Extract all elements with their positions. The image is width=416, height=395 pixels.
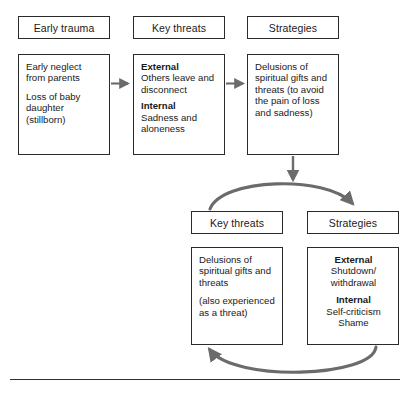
- early-trauma-line-1: Early neglect from parents: [26, 61, 103, 84]
- header-strategies-bottom: Strategies: [307, 211, 399, 234]
- header-strategies-bottom-label: Strategies: [329, 217, 377, 229]
- strategies-bottom-external-label: External: [315, 254, 392, 265]
- header-early-trauma-label: Early trauma: [34, 22, 95, 34]
- strategies-bottom-internal-label: Internal: [315, 294, 392, 305]
- key-threats-top-external: External Others leave and disconnect: [141, 61, 218, 95]
- key-threats-top-external-text: Others leave and disconnect: [141, 72, 214, 94]
- header-key-threats-top: Key threats: [133, 16, 225, 39]
- arrow-cycle-top-arc: [210, 184, 352, 209]
- formulation-diagram: Early trauma Early neglect from parents …: [0, 0, 416, 395]
- strategies-top-line-1: Delusions of spiritual gifts and threats…: [255, 61, 332, 118]
- key-threats-bottom-line-1: Delusions of spiritual gifts and threats: [199, 254, 276, 288]
- header-early-trauma: Early trauma: [18, 16, 110, 39]
- strategies-bottom-external-text: Shutdown/ withdrawal: [331, 265, 376, 287]
- header-key-threats-top-label: Key threats: [152, 22, 206, 34]
- box-strategies-top-content: Delusions of spiritual gifts and threats…: [247, 54, 339, 155]
- box-early-trauma-content: Early neglect from parents Loss of baby …: [18, 54, 110, 155]
- key-threats-bottom-line-2: (also experienced as a threat): [199, 295, 276, 318]
- strategies-bottom-internal-text: Self-criticism Shame: [326, 306, 380, 328]
- header-key-threats-bottom: Key threats: [191, 211, 283, 234]
- header-strategies-top-label: Strategies: [269, 22, 317, 34]
- key-threats-top-external-label: External: [141, 61, 218, 72]
- box-strategies-bottom-content: External Shutdown/ withdrawal Internal S…: [307, 247, 399, 345]
- early-trauma-line-2: Loss of baby daughter (stillborn): [26, 91, 103, 125]
- key-threats-top-internal: Internal Sadness and aloneness: [141, 100, 218, 134]
- header-strategies-top: Strategies: [247, 16, 339, 39]
- bottom-divider-rule: [10, 379, 400, 380]
- header-key-threats-bottom-label: Key threats: [210, 217, 264, 229]
- strategies-bottom-external: External Shutdown/ withdrawal: [315, 254, 392, 288]
- arrow-cycle-bottom-arc: [210, 347, 376, 372]
- box-key-threats-top-content: External Others leave and disconnect Int…: [133, 54, 225, 155]
- key-threats-top-internal-label: Internal: [141, 100, 218, 111]
- strategies-bottom-internal: Internal Self-criticism Shame: [315, 294, 392, 328]
- key-threats-top-internal-text: Sadness and aloneness: [141, 112, 197, 134]
- box-key-threats-bottom-content: Delusions of spiritual gifts and threats…: [191, 247, 283, 345]
